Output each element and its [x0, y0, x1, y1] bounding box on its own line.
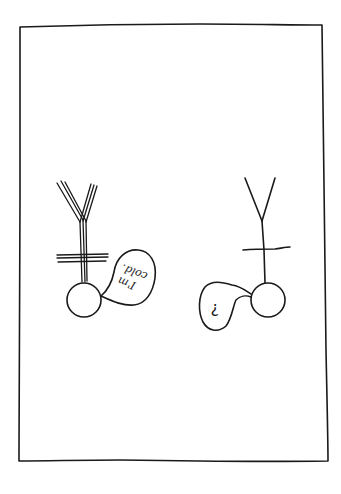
right-figure-head	[251, 283, 285, 317]
left-figure: I'm cold.	[57, 181, 155, 317]
frame-border	[19, 24, 328, 461]
left-figure-limb-right	[80, 184, 97, 222]
left-figure-arms	[57, 254, 108, 262]
right-figure-limb-right	[262, 178, 275, 221]
right-figure-arms	[243, 247, 290, 250]
left-figure-body	[80, 220, 87, 282]
right-figure-limb-left	[245, 178, 262, 221]
right-figure: ?	[199, 178, 290, 330]
right-speech-bubble	[199, 282, 251, 330]
right-figure-body	[262, 221, 265, 283]
right-bubble-question-mark: ?	[211, 300, 220, 319]
left-figure-head	[67, 283, 101, 317]
drawing-canvas: I'm cold. ?	[0, 0, 341, 494]
